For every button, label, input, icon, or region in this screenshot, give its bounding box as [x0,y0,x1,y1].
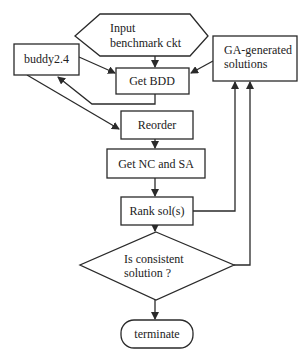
reorder-label: Reorder [138,118,177,132]
ga-label-line1: GA-generated [224,43,292,57]
input-label-line2: benchmark ckt [110,36,182,50]
flowchart: Input benchmark ckt buddy2.4 GA-generate… [0,0,307,360]
edge-rank-to-ga [193,82,235,211]
rank-label: Rank sol(s) [130,204,185,218]
input-label-line1: Input [110,21,136,35]
edge-buddy-to-reorder [27,75,119,129]
terminate-label: terminate [134,327,179,341]
decision-label-line2: solution ? [124,266,171,280]
edge-decision-to-ga [234,82,250,265]
get-nc-sa-label: Get NC and SA [118,157,194,171]
get-bdd-label: Get BDD [129,74,175,88]
ga-label-line2: solutions [224,57,268,71]
edge-buddy-to-getbdd [79,57,115,73]
decision-label-line1: Is consistent [124,252,184,266]
edge-ga-to-getbdd [191,61,213,73]
buddy-label: buddy2.4 [24,52,69,66]
